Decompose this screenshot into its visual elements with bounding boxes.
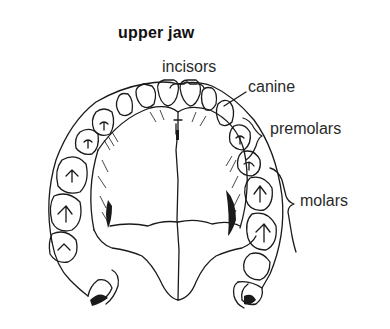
- midpalatal-suture: [176, 112, 179, 300]
- tooth-canine: [216, 100, 233, 125]
- transverse-suture: [110, 220, 240, 226]
- tooth-molar: [244, 253, 270, 280]
- posterior-border: [94, 230, 256, 300]
- tooth-molar: [245, 177, 273, 210]
- premolars-bracket: [243, 118, 262, 160]
- palate-outline: [98, 107, 247, 228]
- tooth-molar: [247, 213, 277, 250]
- tooth-premolar: [76, 129, 99, 154]
- upper-jaw-illustration: [0, 0, 390, 329]
- tooth-incisor: [136, 84, 156, 108]
- tooth-incisor: [202, 88, 217, 111]
- tooth-canine: [116, 94, 132, 116]
